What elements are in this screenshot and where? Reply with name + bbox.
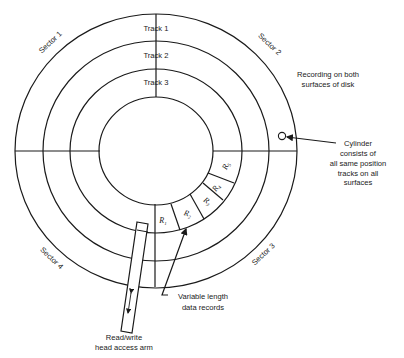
- records-annotation: data records: [182, 303, 224, 312]
- sector-label: Sector 3: [250, 241, 277, 267]
- cylinder-annotation: all same position: [330, 159, 387, 168]
- records-annotation: Variable length: [178, 292, 228, 301]
- record-label-r1: R1: [158, 216, 166, 226]
- track-label: Track 2: [143, 51, 168, 60]
- cylinder-annotation: consists of: [340, 149, 377, 158]
- record-divider-4-5: [208, 173, 234, 183]
- sector-label: Sector 2: [256, 31, 283, 57]
- track-label: Track 3: [143, 78, 168, 87]
- record-divider-2-3: [190, 194, 204, 219]
- sector-label: Sector 4: [38, 245, 65, 271]
- recording-annotation: surfaces of disk: [302, 80, 355, 89]
- cylinder-marker: [278, 132, 285, 139]
- svg-text:R5: R5: [220, 160, 233, 172]
- cylinder-annotation: surfaces: [344, 178, 373, 187]
- record-label-r3: R3: [200, 195, 213, 208]
- arm-annotation: Read/write: [106, 333, 142, 342]
- cylinder-annotation: tracks on all: [338, 169, 379, 178]
- svg-text:R2: R2: [182, 208, 193, 220]
- inner-hub: [99, 97, 213, 205]
- arm-annotation: head access arm: [95, 343, 153, 352]
- read-write-arm: [121, 222, 148, 333]
- recording-annotation: Recording on both: [297, 70, 359, 79]
- record-divider-1-2: [171, 204, 180, 230]
- svg-text:R3: R3: [200, 195, 213, 208]
- record-label-r2: R2: [182, 208, 193, 220]
- disk-diagram: Track 1 Track 2 Track 3 Sector 1 Sector …: [0, 0, 404, 358]
- svg-text:R1: R1: [158, 216, 166, 226]
- cylinder-arrow: [287, 137, 336, 143]
- cylinder-annotation: Cylinder: [344, 139, 372, 148]
- record-label-r4: R4: [210, 182, 223, 195]
- svg-text:R4: R4: [210, 182, 223, 195]
- track-label: Track 1: [143, 24, 168, 33]
- record-label-r5: R5: [220, 160, 233, 172]
